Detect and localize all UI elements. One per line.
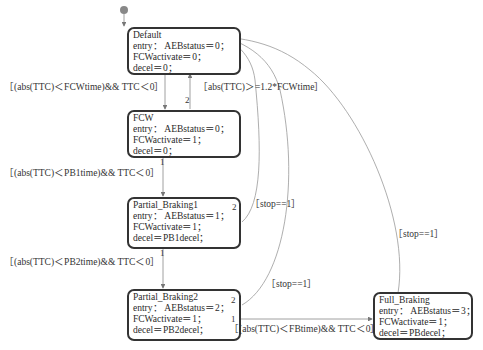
priority-pb1-pb2: 1: [160, 248, 165, 258]
guard-pb1-pb2: ［(abs(TTC)＜PB2time)&& TTC＜0］: [4, 257, 160, 268]
state-full-braking[interactable]: Full_Braking entry： AEBstatus＝3； FCWacti…: [373, 292, 473, 340]
state-entry: entry： AEBstatus＝1；: [133, 211, 235, 222]
state-name: Full_Braking: [379, 295, 467, 306]
guard-pb1-default: ［stop==1］: [250, 199, 301, 210]
state-entry: entry： AEBstatus＝0；: [133, 124, 235, 135]
state-action: FCWactivate＝1；: [133, 314, 235, 325]
state-default[interactable]: Default entry： AEBstatus＝0； FCWactivate＝…: [127, 27, 241, 75]
priority-fcw-pb1: 1: [160, 157, 165, 167]
state-action: decel＝PB2decel；: [133, 325, 235, 336]
state-partial-braking1[interactable]: Partial_Braking1 entry： AEBstatus＝1； FCW…: [127, 197, 241, 249]
state-name: Partial_Braking2: [133, 292, 235, 303]
priority-pb2-default: 2: [231, 295, 236, 305]
state-name: Default: [133, 30, 235, 41]
state-action: FCWactivate＝1；: [133, 222, 235, 233]
guard-default-fcw: ［(abs(TTC)＜FCWtime)&& TTC＜0］: [4, 82, 164, 93]
state-action: decel＝PB1decel；: [133, 233, 235, 244]
guard-pb2-default: ［stop==1］: [266, 279, 317, 290]
state-partial-braking2[interactable]: Partial_Braking2 entry： AEBstatus＝2； FCW…: [127, 289, 241, 341]
priority-pb2-fb: 1: [231, 314, 236, 324]
initial-state-dot: [120, 6, 128, 14]
state-action: decel＝PBdecel；: [379, 328, 467, 339]
state-action: FCWactivate＝1；: [133, 135, 235, 146]
state-action: FCWactivate＝1；: [379, 317, 467, 328]
state-entry: entry： AEBstatus＝2；: [133, 303, 235, 314]
state-name: Partial_Braking1: [133, 200, 235, 211]
guard-fcw-pb1: ［(abs(TTC)＜PB1time)&& TTC＜0］: [4, 168, 160, 179]
state-entry: entry： AEBstatus＝3；: [379, 306, 467, 317]
priority-fcw-default: 2: [185, 95, 190, 105]
guard-fb-default: ［stop==1］: [393, 229, 444, 240]
transition-fb-default: [212, 36, 400, 293]
state-entry: entry： AEBstatus＝0；: [133, 41, 235, 52]
guard-fcw-default: ［abs(TTC)＞=1.2*FCWtime］: [198, 82, 324, 93]
state-name: FCW: [133, 113, 235, 124]
priority-pb1-default: 2: [232, 202, 237, 212]
guard-pb2-fb: ［(abs(TTC)＜FBtime)&& TTC＜0］: [229, 324, 380, 335]
state-action: decel＝0；: [133, 63, 235, 74]
state-action: FCWactivate＝0；: [133, 52, 235, 63]
state-action: decel＝0；: [133, 146, 235, 157]
state-fcw[interactable]: FCW entry： AEBstatus＝0； FCWactivate＝1； d…: [127, 110, 241, 158]
